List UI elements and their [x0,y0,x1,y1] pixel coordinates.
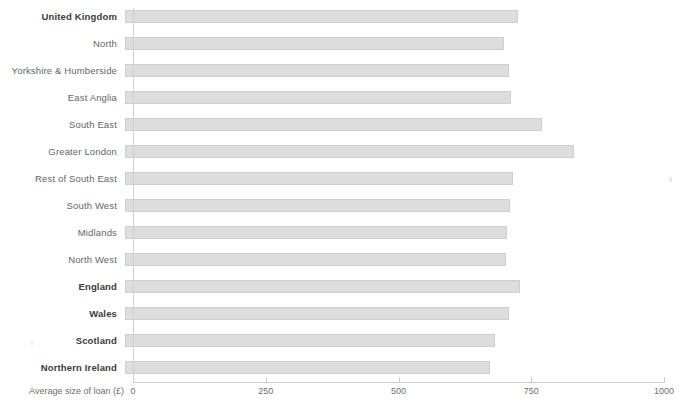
bar-united-kingdom [125,10,518,23]
bar-track [125,354,685,381]
bar-track [125,273,685,300]
bar-north [125,37,504,50]
bar-track [125,327,685,354]
x-axis-tick [399,377,400,383]
bar-label-south-west: South West [0,200,125,212]
bar-row-england: England [0,273,685,300]
bar-label-east-anglia: East Anglia [0,92,125,104]
bar-track [125,111,685,138]
bar-label-northern-ireland: Northern Ireland [0,362,125,374]
x-axis-tick-label: 500 [391,386,406,397]
bar-label-north-west: North West [0,254,125,266]
bar-greater-london [125,145,574,158]
x-axis-tick [266,377,267,383]
bar-track [125,3,685,30]
bar-label-rest-of-south-east: Rest of South East [0,173,125,185]
x-axis-tick-label: 250 [258,386,273,397]
bar-row-northern-ireland: Northern Ireland [0,354,685,381]
bar-chart: United Kingdom North Yorkshire & Humbers… [0,0,685,418]
bar-track [125,138,685,165]
bar-row-rest-of-south-east: Rest of South East [0,165,685,192]
scan-artifact [669,177,672,182]
x-axis-tick-label: 0 [130,386,135,397]
bar-rest-of-south-east [125,172,513,185]
bar-south-west [125,199,510,212]
bar-track [125,165,685,192]
scan-artifact [31,341,33,345]
x-axis-tick [133,377,134,383]
bar-row-north: North [0,30,685,57]
bar-row-north-west: North West [0,246,685,273]
bar-track [125,300,685,327]
bar-row-midlands: Midlands [0,219,685,246]
bar-label-midlands: Midlands [0,227,125,239]
bar-label-wales: Wales [0,308,125,320]
bar-south-east [125,118,542,131]
bar-track [125,84,685,111]
bar-row-south-east: South East [0,111,685,138]
bar-yorkshire-humberside [125,64,509,77]
bar-label-united-kingdom: United Kingdom [0,11,125,23]
bar-row-greater-london: Greater London [0,138,685,165]
bar-north-west [125,253,506,266]
bar-label-greater-london: Greater London [0,146,125,158]
bar-row-yorkshire-humberside: Yorkshire & Humberside [0,57,685,84]
bar-label-south-east: South East [0,119,125,131]
x-axis-tick [664,377,665,383]
bar-england [125,280,520,293]
x-axis-tick-label: 1000 [654,386,674,397]
bar-track [125,192,685,219]
x-axis-title: Average size of loan (£) [29,386,124,397]
bar-midlands [125,226,507,239]
bar-track [125,30,685,57]
bar-label-north: North [0,38,125,50]
bar-row-united-kingdom: United Kingdom [0,3,685,30]
x-axis-tick-label: 750 [524,386,539,397]
bar-row-south-west: South West [0,192,685,219]
bar-label-england: England [0,281,125,293]
bar-east-anglia [125,91,511,104]
bar-northern-ireland [125,361,490,374]
bar-scotland [125,334,495,347]
bar-row-east-anglia: East Anglia [0,84,685,111]
bar-row-scotland: Scotland [0,327,685,354]
x-axis-tick [531,377,532,383]
bar-track [125,219,685,246]
bar-label-scotland: Scotland [0,335,125,347]
bar-track [125,246,685,273]
bar-label-yorkshire-humberside: Yorkshire & Humberside [0,65,125,77]
bar-track [125,57,685,84]
bar-wales [125,307,509,320]
y-axis-line [133,8,134,382]
chart-plot-area: United Kingdom North Yorkshire & Humbers… [0,0,685,382]
bar-row-wales: Wales [0,300,685,327]
